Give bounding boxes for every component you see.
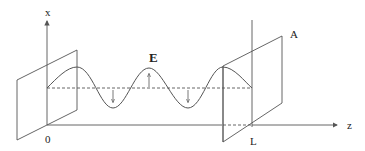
standing-wave-diagram: x z 0 L E A — [0, 0, 365, 151]
field-label: E — [149, 50, 158, 65]
standing-wave-curve — [47, 67, 252, 108]
right-plate — [223, 36, 282, 142]
origin-label: 0 — [45, 133, 51, 145]
z-axis-label: z — [347, 119, 352, 131]
x-axis-label: x — [45, 6, 51, 18]
length-label: L — [250, 135, 257, 147]
plate-label: A — [290, 28, 298, 40]
